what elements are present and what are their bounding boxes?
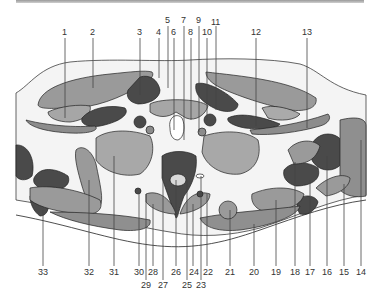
label-9: 9	[196, 15, 201, 25]
label-33: 33	[38, 267, 48, 277]
structure-30	[135, 188, 141, 194]
structure-26-spinal-cord	[170, 174, 186, 186]
label-26: 26	[171, 267, 181, 277]
label-5: 5	[165, 15, 170, 25]
structure-node-small	[146, 126, 154, 134]
label-8: 8	[188, 27, 193, 37]
label-29: 29	[141, 280, 151, 290]
structure-ring	[196, 174, 204, 178]
label-7: 7	[181, 15, 186, 25]
label-22: 22	[203, 267, 213, 277]
label-10: 10	[202, 27, 212, 37]
label-14: 14	[356, 267, 366, 277]
label-4: 4	[156, 27, 161, 37]
label-2: 2	[90, 27, 95, 37]
bottom-labels-row1: 33 32 31 30 28 26 24 22 21 20 19 18 17 1…	[38, 267, 366, 277]
label-27: 27	[158, 280, 168, 290]
label-25: 25	[182, 280, 192, 290]
label-6: 6	[171, 27, 176, 37]
structure-10	[204, 114, 216, 126]
label-16: 16	[322, 267, 332, 277]
label-20: 20	[249, 267, 259, 277]
label-17: 17	[305, 267, 315, 277]
label-12: 12	[251, 27, 261, 37]
label-18: 18	[290, 267, 300, 277]
label-1: 1	[62, 27, 67, 37]
structure-21	[219, 201, 237, 219]
label-13: 13	[302, 27, 312, 37]
label-21: 21	[225, 267, 235, 277]
label-19: 19	[271, 267, 281, 277]
label-30: 30	[134, 267, 144, 277]
cross-section-diagram: 1 2 3 4 5 6 7 8 9 10 11 12 13 33 32 31 3…	[0, 0, 381, 302]
structure-node-left	[134, 116, 146, 128]
label-15: 15	[339, 267, 349, 277]
label-28: 28	[148, 267, 158, 277]
structure-6	[170, 116, 184, 140]
label-24: 24	[189, 267, 199, 277]
label-3: 3	[137, 27, 142, 37]
structure-22-23	[197, 191, 203, 197]
label-11: 11	[211, 17, 220, 27]
label-31: 31	[109, 267, 119, 277]
label-23: 23	[196, 280, 206, 290]
structure-vertebra-left	[96, 131, 153, 175]
bottom-labels-row2: 29 27 25 23	[141, 280, 206, 290]
top-labels: 1 2 3 4 5 6 7 8 9 10 11 12 13	[62, 15, 312, 37]
label-32: 32	[84, 267, 94, 277]
